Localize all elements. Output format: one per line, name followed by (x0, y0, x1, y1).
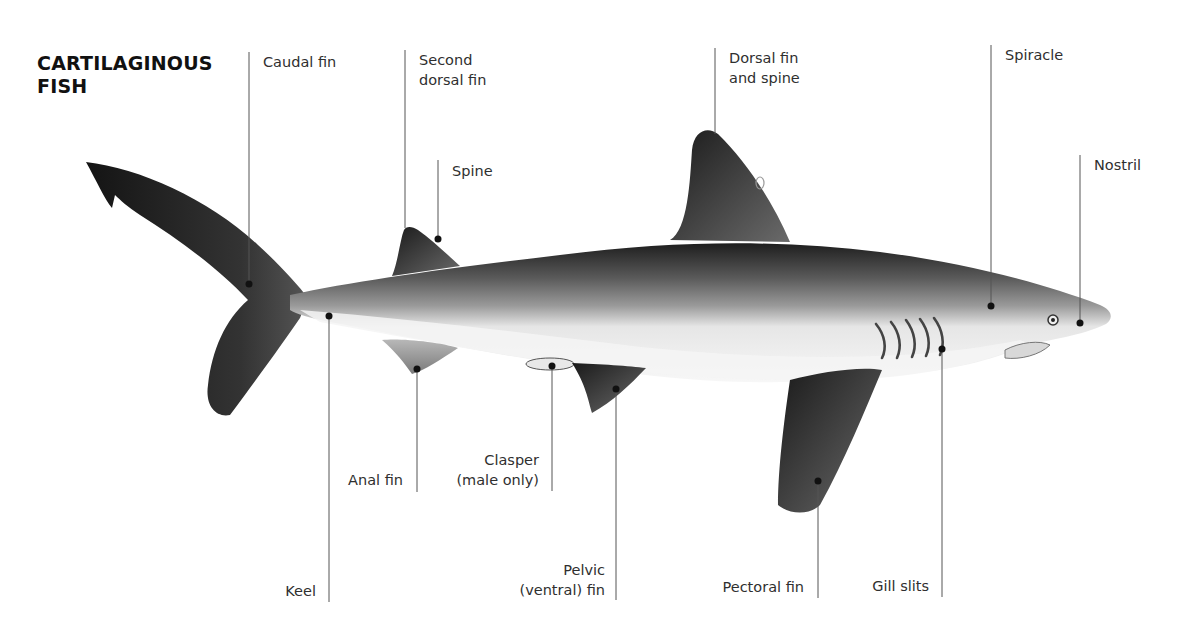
second-dorsal-fin-shape (392, 227, 460, 276)
label-anal-fin: Anal fin (348, 470, 403, 490)
label-second-dorsal-fin: Second dorsal fin (419, 50, 486, 90)
pectoral-fin-shape (778, 369, 882, 513)
shark-illustration (0, 0, 1184, 637)
label-clasper: Clasper (male only) (456, 450, 539, 490)
label-spine-text: Spine (452, 161, 493, 181)
label-pelvic-fin: Pelvic (ventral) fin (520, 560, 606, 600)
label-keel-text: Keel (285, 581, 316, 601)
label-caudal-fin-text: Caudal fin (263, 52, 336, 72)
pelvic-fin-shape (572, 363, 646, 413)
label-pectoral-fin: Pectoral fin (723, 577, 805, 597)
label-second-dorsal-fin-line1: Second (419, 50, 486, 70)
label-anal-fin-text: Anal fin (348, 470, 403, 490)
eye-shape (1048, 315, 1058, 325)
label-pelvic-fin-line1: Pelvic (520, 560, 606, 580)
label-clasper-line2: (male only) (456, 470, 539, 490)
label-nostril-text: Nostril (1094, 155, 1141, 175)
label-spiracle: Spiracle (1005, 45, 1063, 65)
label-gill-slits-text: Gill slits (872, 576, 929, 596)
label-dorsal-fin-line2: and spine (729, 68, 800, 88)
label-nostril: Nostril (1094, 155, 1141, 175)
label-pelvic-fin-line2: (ventral) fin (520, 580, 606, 600)
label-keel: Keel (285, 581, 316, 601)
dorsal-fin-shape (670, 130, 790, 242)
label-second-dorsal-fin-line2: dorsal fin (419, 70, 486, 90)
label-caudal-fin: Caudal fin (263, 52, 336, 72)
label-pectoral-fin-text: Pectoral fin (723, 577, 805, 597)
label-gill-slits: Gill slits (872, 576, 929, 596)
label-spiracle-text: Spiracle (1005, 45, 1063, 65)
caudal-fin-shape (86, 162, 308, 415)
label-clasper-line1: Clasper (456, 450, 539, 470)
label-spine: Spine (452, 161, 493, 181)
label-dorsal-fin-line1: Dorsal fin (729, 48, 800, 68)
label-dorsal-fin-and-spine: Dorsal fin and spine (729, 48, 800, 88)
